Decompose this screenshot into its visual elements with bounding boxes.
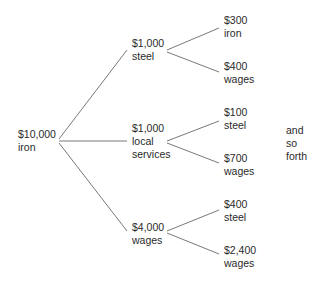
root-amount: $10,000 (18, 128, 56, 141)
node-amount: $300 (224, 14, 247, 27)
level1-node-wages: $4,000 wages (132, 221, 164, 247)
level1-node-steel: $1,000 steel (132, 37, 164, 63)
node-amount: $700 (224, 152, 254, 165)
node-label: steel (224, 119, 247, 132)
node-label: steel (224, 211, 247, 224)
edge-local-steel (167, 121, 219, 141)
node-label: iron (224, 27, 247, 40)
level2-node-wages-b: $700 wages (224, 152, 254, 178)
node-label: wages (224, 73, 254, 86)
and-so-forth-annotation: and so forth (286, 124, 307, 163)
annotation-line: so (286, 137, 307, 150)
node-amount: $2,400 (224, 244, 256, 257)
node-label: wages (224, 165, 254, 178)
root-label: iron (18, 141, 56, 154)
node-label: steel (132, 50, 164, 63)
edge-local-wages (167, 143, 219, 163)
edge-root-wages (59, 143, 127, 231)
node-amount: $1,000 (132, 37, 164, 50)
node-label: local (132, 135, 171, 148)
edge-steel-iron (167, 28, 219, 50)
edge-root-steel (59, 50, 127, 139)
node-amount: $1,000 (132, 122, 171, 135)
level2-node-steel-a: $100 steel (224, 106, 247, 132)
node-label: wages (132, 234, 164, 247)
edge-wages-steel (167, 210, 219, 231)
level1-node-local-services: $1,000 local services (132, 122, 171, 161)
edge-steel-wages (167, 52, 219, 72)
root-node: $10,000 iron (18, 128, 56, 154)
annotation-line: forth (286, 150, 307, 163)
level2-node-wages-c: $2,400 wages (224, 244, 256, 270)
edge-wages-wages (167, 233, 219, 254)
node-amount: $4,000 (132, 221, 164, 234)
level2-node-iron: $300 iron (224, 14, 247, 40)
node-label-2: services (132, 148, 171, 161)
level2-node-steel-b: $400 steel (224, 198, 247, 224)
node-amount: $400 (224, 198, 247, 211)
node-amount: $400 (224, 60, 254, 73)
node-label: wages (224, 257, 256, 270)
annotation-line: and (286, 124, 307, 137)
level2-node-wages-a: $400 wages (224, 60, 254, 86)
node-amount: $100 (224, 106, 247, 119)
